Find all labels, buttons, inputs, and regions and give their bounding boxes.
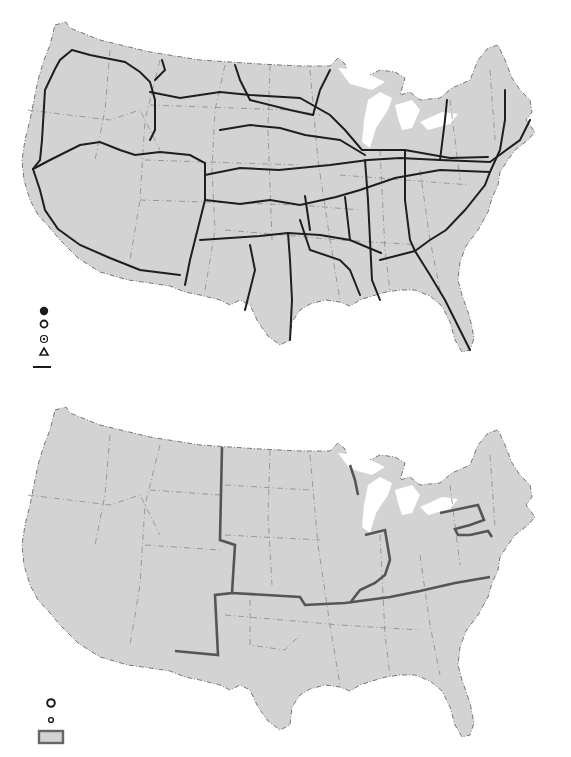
- networks-map: [22, 22, 535, 367]
- networks-legend: [33, 307, 51, 367]
- triangle-icon: [40, 348, 48, 355]
- zone-swatch-icon: [39, 731, 63, 743]
- clear-channel-legend: [39, 699, 63, 743]
- filled-circle-icon: [40, 307, 48, 315]
- clear-channel-map: [22, 407, 535, 737]
- dotted-circle-center-icon: [43, 338, 45, 340]
- large-ring-icon: [47, 699, 55, 707]
- figure: [0, 0, 571, 757]
- open-circle-icon: [41, 321, 48, 328]
- small-ring-icon: [49, 718, 54, 723]
